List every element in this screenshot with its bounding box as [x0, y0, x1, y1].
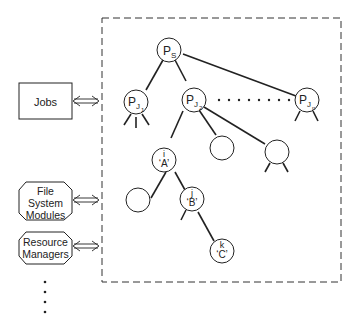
- svg-text:P: P: [299, 93, 307, 107]
- node-empty-1: [210, 136, 234, 160]
- svg-text:Managers: Managers: [22, 248, 69, 260]
- svg-text:Jobs: Jobs: [34, 96, 58, 108]
- svg-text:System: System: [28, 197, 63, 209]
- node-empty-2: [265, 140, 289, 164]
- more-components-ellipsis: [44, 281, 47, 314]
- resource-managers-double-arrow-icon: [73, 241, 99, 251]
- node-i-a: i ‘A’: [152, 148, 176, 172]
- node-k-c: k ‘C’: [210, 239, 234, 263]
- node-ps: P S: [157, 38, 181, 62]
- svg-text:File: File: [37, 185, 54, 197]
- node-pj2: P J 2: [182, 88, 206, 112]
- jobs-box: Jobs: [19, 83, 72, 119]
- svg-text:‘A’: ‘A’: [159, 158, 169, 169]
- svg-text:‘C’: ‘C’: [216, 249, 228, 260]
- svg-text:J: J: [136, 102, 140, 111]
- svg-text:J: J: [194, 100, 198, 109]
- node-j-b: j ‘B’: [180, 187, 204, 211]
- process-tree-diagram: P S P J 1 P J 2 P J n i ‘A’ j ‘B’: [0, 0, 357, 324]
- file-system-double-arrow-icon: [73, 195, 99, 205]
- jobs-double-arrow-icon: [73, 96, 99, 106]
- node-pj1: P J 1: [124, 90, 148, 114]
- svg-text:P: P: [163, 44, 171, 58]
- svg-text:J: J: [307, 100, 311, 109]
- file-system-modules-box: File System Modules: [19, 182, 72, 221]
- svg-text:P: P: [128, 95, 136, 109]
- svg-text:S: S: [171, 51, 176, 60]
- node-pjn: P J n: [295, 88, 319, 112]
- svg-text:‘B’: ‘B’: [186, 197, 197, 208]
- svg-text:P: P: [186, 93, 194, 107]
- resource-managers-box: Resource Managers: [19, 232, 72, 264]
- svg-text:Resource: Resource: [23, 236, 68, 248]
- node-empty-3: [126, 188, 150, 212]
- dotted-connector: [218, 99, 290, 101]
- svg-text:Modules: Modules: [26, 209, 66, 221]
- svg-text:n: n: [312, 105, 315, 111]
